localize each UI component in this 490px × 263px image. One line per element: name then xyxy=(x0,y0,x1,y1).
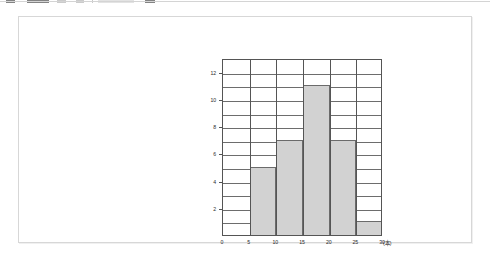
xtick-label-15: 15 xyxy=(292,239,312,245)
x-axis-unit-label: (本) xyxy=(383,239,391,246)
ytick-label-2: 2 xyxy=(196,206,216,212)
bar-15-20 xyxy=(303,85,330,235)
gridline-v-5 xyxy=(250,60,251,235)
document-panel: 12 10 8 6 4 2 0 5 10 15 20 25 30 (本) xyxy=(18,16,472,243)
ytick-2 xyxy=(219,209,222,210)
gridline-h-9 xyxy=(223,115,381,116)
ytick-label-12: 12 xyxy=(196,70,216,76)
application-toolbar xyxy=(0,0,490,12)
ytick-label-10: 10 xyxy=(196,97,216,103)
xtick-label-0: 0 xyxy=(212,239,232,245)
gridline-h-10 xyxy=(223,101,381,102)
xtick-label-5: 5 xyxy=(239,239,259,245)
ytick-6 xyxy=(219,154,222,155)
ytick-10 xyxy=(219,100,222,101)
gridline-v-20 xyxy=(330,60,331,235)
ytick-4 xyxy=(219,182,222,183)
bar-25-30 xyxy=(356,221,382,235)
gridline-h-8 xyxy=(223,128,381,129)
bar-20-25 xyxy=(330,140,357,235)
ytick-label-4: 4 xyxy=(196,179,216,185)
ytick-label-8: 8 xyxy=(196,124,216,130)
gridline-v-25 xyxy=(356,60,357,235)
gridline-v-15 xyxy=(303,60,304,235)
ytick-label-6: 6 xyxy=(196,151,216,157)
ytick-8 xyxy=(219,127,222,128)
xtick-label-20: 20 xyxy=(319,239,339,245)
xtick-label-25: 25 xyxy=(345,239,365,245)
gridline-h-11 xyxy=(223,87,381,88)
bar-10-15 xyxy=(276,140,303,235)
histogram-chart: 12 10 8 6 4 2 0 5 10 15 20 25 30 (本) xyxy=(200,59,400,251)
ytick-12 xyxy=(219,73,222,74)
plot-area xyxy=(222,59,382,236)
bar-5-10 xyxy=(250,167,277,235)
gridline-v-10 xyxy=(276,60,277,235)
gridline-h-12 xyxy=(223,74,381,75)
xtick-label-10: 10 xyxy=(265,239,285,245)
toolbar-bottom-rule xyxy=(0,1,490,2)
